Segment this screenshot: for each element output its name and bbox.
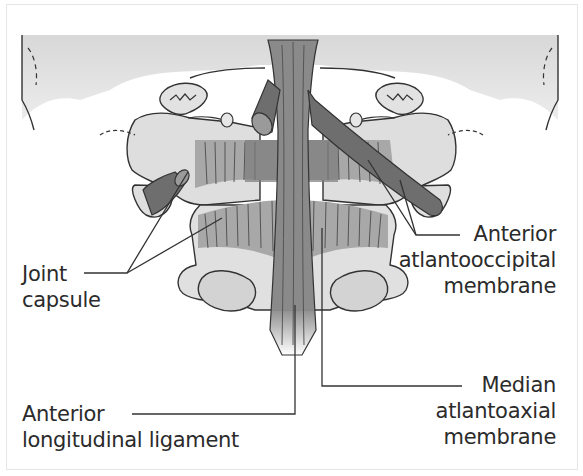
label-line: membrane (436, 424, 556, 450)
label-line: longitudinal ligament (22, 427, 239, 453)
label-anterior-longitudinal-ligament: Anterior longitudinal ligament (22, 401, 239, 453)
label-line: membrane (399, 273, 556, 299)
label-joint-capsule: Joint capsule (22, 261, 101, 313)
label-line: Median (436, 372, 556, 398)
occipital-condyle-left (160, 83, 207, 114)
label-median-atlantoaxial-membrane: Median atlantoaxial membrane (436, 372, 556, 450)
label-line: atlantoaxial (436, 398, 556, 424)
label-anterior-atlantooccipital-membrane: Anterior atlantooccipital membrane (399, 221, 556, 299)
label-line: capsule (22, 287, 101, 313)
occipital-condyle-right (376, 83, 423, 114)
label-line: Joint (22, 261, 101, 287)
label-line: Anterior (22, 401, 239, 427)
label-line: atlantooccipital (399, 247, 556, 273)
label-line: Anterior (399, 221, 556, 247)
